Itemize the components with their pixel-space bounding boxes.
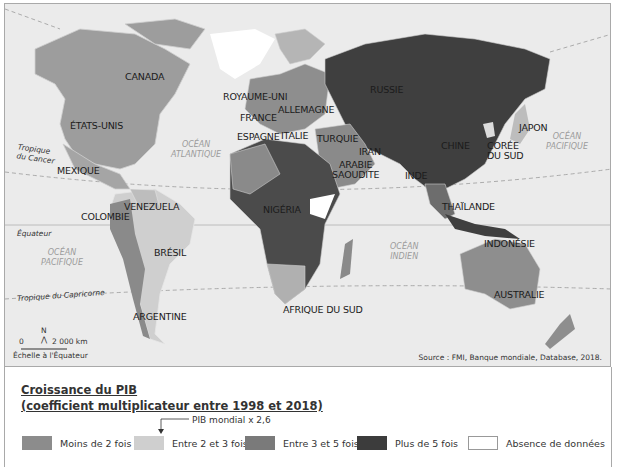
legend-item-moins-2: Moins de 2 fois <box>22 436 131 450</box>
legend-item-absence: Absence de données <box>468 436 605 450</box>
swatch-2-3 <box>134 436 164 450</box>
label-ocean-pacifique-east: OCÉAN PACIFIQUE <box>546 132 588 153</box>
label-australie: AUSTRALIE <box>494 290 544 300</box>
label-france: FRANCE <box>240 113 277 123</box>
label-bresil: BRÉSIL <box>154 248 186 258</box>
label-italie: ITALIE <box>281 131 308 141</box>
world-gdp-note: PIB mondial x 2,6 <box>192 415 271 425</box>
label-chine: CHINE <box>441 141 470 151</box>
label-espagne: ESPAGNE <box>237 132 280 142</box>
label-japon: JAPON <box>519 123 547 133</box>
label-allemagne: ALLEMAGNE <box>278 105 334 115</box>
label-argentine: ARGENTINE <box>133 312 186 322</box>
legend: Croissance du PIB (coefficient multiplic… <box>4 367 612 467</box>
label-coree-du-sud: CORÉE DU SUD <box>487 141 523 161</box>
label-ocean-indien: OCÉAN INDIEN <box>390 242 418 263</box>
label-etats-unis: ÉTATS-UNIS <box>70 121 123 131</box>
label-indonesie: INDONÉSIE <box>484 239 535 249</box>
legend-title: Croissance du PIB <box>21 383 137 397</box>
label-inde: INDE <box>405 171 427 181</box>
label-canada: CANADA <box>125 72 164 82</box>
legend-item-3-5: Entre 3 et 5 fois <box>245 436 359 450</box>
label-afrique-du-sud: AFRIQUE DU SUD <box>283 305 363 315</box>
swatch-plus-5 <box>357 436 387 450</box>
label-turquie: TURQUIE <box>317 134 358 144</box>
north-arrow-icon: N⋀ <box>41 327 47 344</box>
scale-caption: Échelle à l'Équateur <box>13 351 88 360</box>
legend-subtitle: (coefficient multiplicateur entre 1998 e… <box>21 399 323 413</box>
label-ocean-pacifique-west: OCÉAN PACIFIQUE <box>41 248 83 269</box>
scale-value: 2 000 km <box>52 338 88 347</box>
label-colombie: COLOMBIE <box>81 212 129 222</box>
swatch-moins-2 <box>22 436 52 450</box>
label-royaume-uni: ROYAUME-UNI <box>223 92 287 102</box>
legend-item-plus-5: Plus de 5 fois <box>357 436 458 450</box>
swatch-3-5 <box>245 436 275 450</box>
label-equateur: Équateur <box>17 230 51 239</box>
label-nigeria: NIGÉRIA <box>263 205 301 215</box>
label-arabie-saoudite: ARABIE SAOUDITE <box>332 160 379 180</box>
legend-item-2-3: Entre 2 et 3 fois <box>134 436 248 450</box>
swatch-absence <box>468 436 498 450</box>
scale-zero: 0 <box>19 338 24 347</box>
world-map: CANADA ÉTATS-UNIS MEXIQUE COLOMBIE VENEZ… <box>4 3 611 367</box>
source-note: Source : FMI, Banque mondiale, Database,… <box>419 353 602 362</box>
label-mexique: MEXIQUE <box>57 166 100 176</box>
label-iran: IRAN <box>359 147 381 157</box>
label-ocean-atlantique: OCÉAN ATLANTIQUE <box>171 140 221 161</box>
label-venezuela: VENEZUELA <box>124 202 179 212</box>
label-thailande: THAÏLANDE <box>442 202 495 212</box>
label-russie: RUSSIE <box>370 85 403 95</box>
